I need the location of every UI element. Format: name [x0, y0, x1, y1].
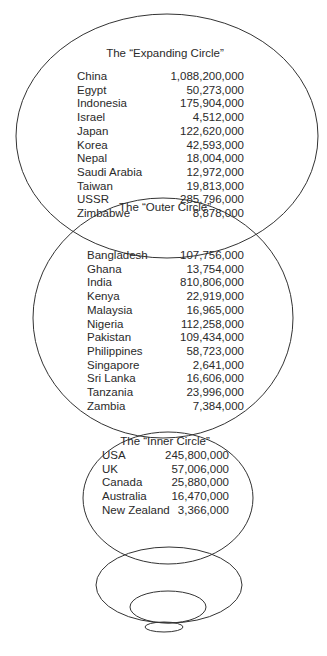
outer-circle-title: The “Outer Circle”	[110, 201, 220, 213]
lower-ellipse-3	[145, 622, 183, 632]
list-item: Nigeria112,258,000	[87, 318, 244, 332]
list-item: Egypt50,273,000	[77, 84, 244, 98]
list-item: Kenya22,919,000	[87, 290, 244, 304]
list-item: Philippines58,723,000	[87, 345, 244, 359]
list-item: UK57,006,000	[102, 463, 229, 477]
list-item: Korea42,593,000	[77, 139, 244, 153]
list-item: Bangladesh107,756,000	[87, 249, 244, 263]
list-item: India810,806,000	[87, 276, 244, 290]
list-item: Nepal18,004,000	[77, 152, 244, 166]
list-item: Zambia7,384,000	[87, 400, 244, 414]
list-item: New Zealand3,366,000	[102, 504, 229, 518]
inner-circle-title: The “Inner Circle”	[110, 435, 220, 447]
outer-circle-list: Bangladesh107,756,000 Ghana13,754,000 In…	[87, 249, 244, 413]
list-item: Saudi Arabia12,972,000	[77, 166, 244, 180]
expanding-circle-list: China1,088,200,000 Egypt50,273,000 Indon…	[77, 70, 244, 221]
list-item: Pakistan109,434,000	[87, 331, 244, 345]
list-item: Indonesia175,904,000	[77, 97, 244, 111]
list-item: Canada25,880,000	[102, 476, 229, 490]
list-item: USA245,800,000	[102, 449, 229, 463]
list-item: Ghana13,754,000	[87, 263, 244, 277]
lower-ellipse-2	[130, 591, 206, 623]
list-item: Tanzania23,996,000	[87, 386, 244, 400]
list-item: China1,088,200,000	[77, 70, 244, 84]
list-item: Israel4,512,000	[77, 111, 244, 125]
inner-circle-list: USA245,800,000 UK57,006,000 Canada25,880…	[102, 449, 229, 518]
list-item: Malaysia16,965,000	[87, 304, 244, 318]
list-item: Singapore2,641,000	[87, 359, 244, 373]
list-item: Japan122,620,000	[77, 125, 244, 139]
list-item: Sri Lanka16,606,000	[87, 372, 244, 386]
list-item: Australia16,470,000	[102, 490, 229, 504]
expanding-circle-title: The “Expanding Circle”	[100, 47, 230, 59]
list-item: Taiwan19,813,000	[77, 180, 244, 194]
lower-ellipse-1	[96, 547, 242, 623]
